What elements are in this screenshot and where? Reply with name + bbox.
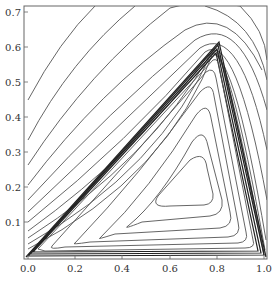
x-tick-label: 0.2	[67, 263, 83, 274]
x-tick-label: 0.0	[20, 263, 36, 274]
x-tick-label: 0.4	[114, 263, 130, 274]
y-tick-label: 0.2	[5, 182, 21, 193]
y-tick-label: 0.4	[5, 112, 21, 123]
y-axis	[24, 12, 28, 222]
contour-plot: 0.0 0.2 0.4 0.6 0.8 1.0 0.1 0.2 0.3 0.4 …	[0, 0, 276, 283]
y-tick-label: 0.3	[5, 147, 21, 158]
plot-area	[26, 2, 267, 257]
x-tick-label: 1.0	[256, 263, 272, 274]
x-tick-label: 0.6	[162, 263, 178, 274]
y-tick-labels: 0.1 0.2 0.3 0.4 0.5 0.6 0.7	[5, 7, 21, 228]
y-tick-label: 0.1	[5, 217, 21, 228]
x-tick-labels: 0.0 0.2 0.4 0.6 0.8 1.0	[20, 263, 272, 274]
y-tick-label: 0.7	[5, 7, 21, 18]
x-tick-label: 0.8	[209, 263, 225, 274]
y-tick-label: 0.6	[5, 42, 21, 53]
y-tick-label: 0.5	[5, 77, 21, 88]
